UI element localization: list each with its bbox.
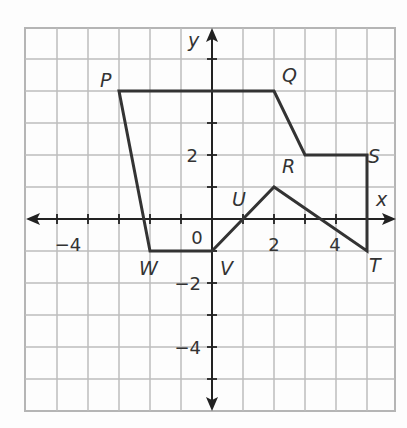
vertex-label-r: R bbox=[282, 155, 295, 177]
x-tick-label-2: 2 bbox=[268, 234, 279, 255]
vertex-label-s: S bbox=[368, 145, 380, 167]
y-axis-label: y bbox=[187, 29, 200, 51]
x-tick-label-4: 4 bbox=[329, 234, 340, 255]
vertex-label-q: Q bbox=[282, 64, 297, 86]
vertex-label-t: T bbox=[369, 254, 382, 276]
axes bbox=[26, 28, 396, 411]
origin-label: 0 bbox=[191, 227, 202, 248]
vertex-label-u: U bbox=[232, 188, 246, 210]
y-tick-label-neg2: −2 bbox=[174, 273, 201, 294]
coordinate-plane: y x −4 2 4 0 2 −2 −4 P Q S T R U V W bbox=[0, 0, 407, 428]
x-axis-label: x bbox=[375, 188, 388, 210]
y-tick-label-neg4: −4 bbox=[174, 337, 201, 358]
vertex-label-p: P bbox=[100, 69, 112, 91]
vertex-label-w: W bbox=[139, 257, 159, 279]
y-tick-label-2: 2 bbox=[187, 145, 198, 166]
vertex-label-v: V bbox=[220, 257, 235, 279]
x-tick-label-neg4: −4 bbox=[55, 234, 82, 255]
